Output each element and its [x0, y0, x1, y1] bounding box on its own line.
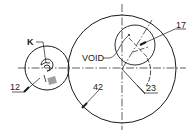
void-dot	[128, 34, 130, 36]
label-12: 12	[10, 82, 20, 92]
radial-line-b	[122, 69, 145, 94]
leader-17	[140, 29, 186, 45]
label-k: K	[27, 37, 34, 47]
label-42: 42	[93, 82, 103, 92]
small-block	[47, 76, 57, 85]
label-void: VOID	[82, 53, 105, 63]
leader-17-arrow	[140, 42, 146, 45]
arc-23	[146, 58, 151, 86]
leader-12-arrow	[24, 87, 29, 92]
label-23: 23	[146, 83, 156, 93]
label-17: 17	[176, 20, 186, 30]
block-stem	[44, 75, 46, 82]
inner-cross	[129, 38, 148, 58]
spiral-k	[41, 59, 53, 71]
technical-drawing: K VOID 12 42 17 23	[0, 0, 194, 140]
inner-cross-b	[133, 47, 148, 52]
